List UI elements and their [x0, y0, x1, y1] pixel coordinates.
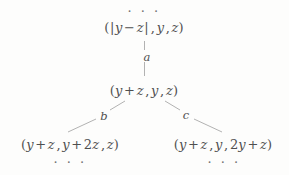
edge-b-line-upper — [110, 101, 125, 110]
edge-label-b: b — [100, 109, 107, 123]
bl-plus-operator-1: + — [34, 137, 48, 152]
edge-label-c: c — [183, 108, 189, 122]
bl-var-5: z — [107, 137, 114, 152]
middle-close-paren: ) — [173, 83, 178, 98]
middle-var-3: y — [151, 83, 159, 98]
br-var-2: z — [201, 137, 208, 152]
edge-label-a: a — [144, 50, 151, 64]
root-var-2: z — [137, 20, 144, 35]
bl-var-2: z — [48, 137, 55, 152]
br-close-paren: ) — [267, 137, 272, 152]
edge-c-line-upper — [165, 101, 180, 110]
edge-b-line-lower — [68, 119, 96, 132]
bl-close-paren: ) — [114, 137, 119, 152]
bl-var-3: y — [62, 137, 70, 152]
br-plus-operator-1: + — [186, 137, 200, 152]
br-var-1: y — [179, 137, 187, 152]
middle-plus-operator: + — [123, 83, 137, 98]
tree-diagram: · · · (|y−z|,y,z) a (y+z,y,z) b c (y+z,y… — [0, 0, 289, 175]
bottom-right-ellipsis: · · · — [207, 155, 240, 170]
top-ellipsis: · · · — [127, 4, 160, 19]
middle-var-1: y — [115, 83, 123, 98]
bl-var-1: y — [26, 137, 34, 152]
bottom-right-node: (y+z,y,2y+z) — [174, 137, 273, 152]
bottom-left-ellipsis: · · · — [53, 155, 86, 170]
root-var-3: y — [157, 20, 165, 35]
bl-plus-operator-2: + — [70, 137, 84, 152]
root-comma-1: , — [149, 20, 156, 35]
root-close-paren: ) — [179, 20, 184, 35]
br-coefficient: 2 — [230, 137, 238, 152]
middle-var-2: z — [137, 83, 144, 98]
br-var-3: y — [215, 137, 223, 152]
edge-c-line-lower — [194, 119, 222, 132]
br-plus-operator-2: + — [246, 137, 260, 152]
bl-comma-2: , — [99, 137, 106, 152]
middle-node: (y+z,y,z) — [110, 83, 179, 98]
root-node: (|y−z|,y,z) — [104, 20, 184, 35]
root-minus-operator: − — [123, 20, 137, 35]
bl-var-4: z — [92, 137, 99, 152]
bottom-left-node: (y+z,y+2z,z) — [21, 137, 119, 152]
